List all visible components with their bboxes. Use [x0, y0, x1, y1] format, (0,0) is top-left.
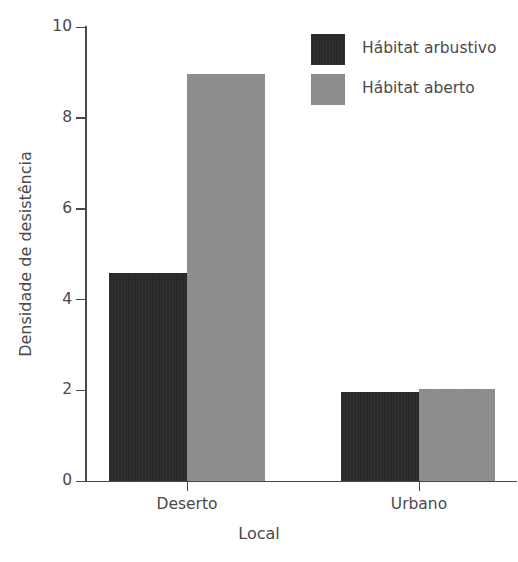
- y-tick-mark-2: [76, 390, 85, 392]
- y-tick-label-0: 0: [44, 473, 72, 489]
- y-tick-mark-4: [76, 299, 85, 301]
- legend: Hábitat arbustivo Hábitat aberto: [311, 29, 497, 109]
- y-tick-label-2: 2: [44, 383, 72, 399]
- legend-label-habitat-aberto: Hábitat aberto: [362, 81, 475, 97]
- x-axis-title: Local: [0, 524, 518, 543]
- y-tick-mark-10: [76, 27, 85, 29]
- y-tick-mark-6: [76, 208, 85, 210]
- y-tick-label-6: 6: [44, 201, 72, 217]
- y-axis-title: Densidade de desistência: [16, 27, 44, 481]
- y-tick-label-4: 4: [44, 292, 72, 308]
- bar-chart: 10 8 6 4 2 0 Deserto Urbano Local Densid…: [0, 0, 518, 562]
- legend-item-habitat-aberto[interactable]: Hábitat aberto: [311, 69, 497, 109]
- y-tick-label-10: 10: [44, 19, 72, 35]
- legend-label-habitat-arbustivo: Hábitat arbustivo: [362, 41, 497, 57]
- x-tick-label-deserto: Deserto: [156, 497, 217, 513]
- legend-swatch-icon-habitat-arbustivo: [311, 34, 345, 65]
- bar-deserto-habitat-aberto[interactable]: [187, 74, 265, 481]
- legend-item-habitat-arbustivo[interactable]: Hábitat arbustivo: [311, 29, 497, 69]
- y-tick-mark-0: [76, 481, 85, 483]
- bar-urbano-habitat-arbustivo[interactable]: [341, 392, 419, 481]
- bar-urbano-habitat-aberto[interactable]: [419, 389, 495, 481]
- y-tick-label-8: 8: [44, 110, 72, 126]
- x-tick-mark-urbano: [419, 481, 421, 491]
- x-tick-mark-deserto: [187, 481, 189, 491]
- legend-swatch-icon-habitat-aberto: [311, 74, 345, 105]
- x-tick-label-urbano: Urbano: [391, 497, 447, 513]
- y-tick-mark-8: [76, 117, 85, 119]
- bar-deserto-habitat-arbustivo[interactable]: [109, 273, 187, 481]
